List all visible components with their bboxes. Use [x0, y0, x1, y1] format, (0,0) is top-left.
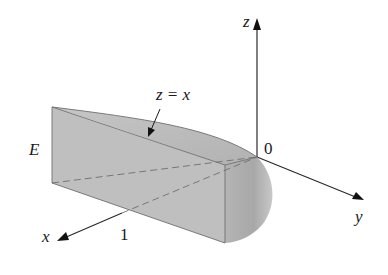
x-axis [57, 213, 122, 241]
y-axis-label: y [355, 208, 363, 225]
y-axis [257, 157, 364, 200]
z-axis-label: z [243, 13, 250, 30]
region-label: E [29, 141, 39, 158]
z-axis [253, 18, 261, 157]
curved-face [225, 157, 272, 243]
x-axis-label: x [42, 228, 50, 245]
solid-region-diagram [0, 0, 388, 275]
origin-label: 0 [264, 140, 273, 157]
z-axis-arrowhead-icon [253, 18, 261, 30]
surface-label: z = x [156, 86, 190, 103]
x-axis-arrowhead-icon [57, 232, 69, 241]
y-axis-arrowhead-icon [352, 192, 364, 200]
x-tick-label: 1 [120, 226, 129, 243]
